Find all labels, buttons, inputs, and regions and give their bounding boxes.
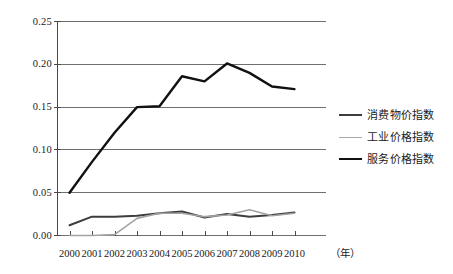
legend-line-swatch xyxy=(339,114,362,116)
x-axis-tick-label: 2008 xyxy=(239,248,260,260)
legend-item: 消费物价指数 xyxy=(339,104,451,126)
y-axis-tick-labels: 0.250.200.150.100.050.00 xyxy=(4,0,52,274)
y-axis-tick-label: 0.20 xyxy=(8,59,52,69)
legend-item-label: 消费物价指数 xyxy=(367,109,435,121)
legend-item-label: 服务价格指数 xyxy=(367,153,435,165)
gridlines xyxy=(58,22,326,236)
x-axis-tick-label: 2007 xyxy=(217,248,238,260)
x-axis-tick-label: 2009 xyxy=(262,248,283,260)
y-axis-tick-label: 0.00 xyxy=(8,231,52,241)
x-axis-tick-label: 2002 xyxy=(104,248,125,260)
data-line xyxy=(70,63,295,192)
x-axis-tick-labels: 2000200120022003200420052006200720082009… xyxy=(0,248,453,266)
chart-legend: 消费物价指数工业价格指数服务价格指数 xyxy=(339,104,451,170)
legend-line-swatch xyxy=(339,158,362,160)
y-axis-tick-label: 0.15 xyxy=(8,102,52,112)
x-axis-tick-label: 2006 xyxy=(194,248,215,260)
legend-item-label: 工业价格指数 xyxy=(367,131,435,143)
y-axis-tick-label: 0.05 xyxy=(8,188,52,198)
x-axis-unit-label: （年） xyxy=(330,248,360,260)
x-axis-tick-label: 2000 xyxy=(59,248,80,260)
chart-container: 0.250.200.150.100.050.00 200020012002200… xyxy=(0,0,453,274)
x-axis-tick-label: 2003 xyxy=(127,248,148,260)
x-axis-tick-label: 2005 xyxy=(172,248,193,260)
y-axis-tick-label: 0.10 xyxy=(8,145,52,155)
x-axis-tick-label: 2010 xyxy=(284,248,305,260)
legend-item: 服务价格指数 xyxy=(339,148,451,170)
legend-line-swatch xyxy=(339,137,362,138)
x-axis-tick-label: 2004 xyxy=(149,248,170,260)
x-axis-tick-label: 2001 xyxy=(82,248,103,260)
y-axis-tick-label: 0.25 xyxy=(8,17,52,27)
legend-item: 工业价格指数 xyxy=(339,126,451,148)
